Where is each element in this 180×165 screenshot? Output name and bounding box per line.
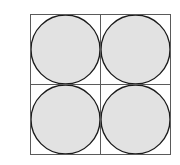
circle-bottom-left bbox=[31, 85, 100, 154]
circle-top-left bbox=[31, 15, 100, 84]
circle-top-right bbox=[101, 15, 170, 84]
square-with-four-circles-diagram bbox=[0, 0, 180, 165]
geometry-figure: 2) bbox=[0, 0, 180, 165]
circle-bottom-right bbox=[101, 85, 170, 154]
